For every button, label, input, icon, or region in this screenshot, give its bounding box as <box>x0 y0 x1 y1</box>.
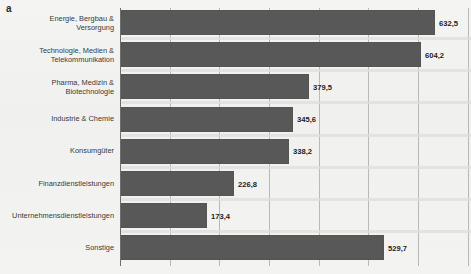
category-label: Pharma, Medizin &Biotechnologie <box>0 77 114 96</box>
bar[interactable] <box>121 107 293 132</box>
row-separator <box>121 230 471 233</box>
bar-rows: Energie, Bergbau &Versorgung632,5Technol… <box>0 8 471 266</box>
bar[interactable] <box>121 74 309 99</box>
row-separator <box>121 166 471 169</box>
bar[interactable] <box>121 10 435 35</box>
bar-row[interactable]: Technologie, Medien &Telekommunikation60… <box>0 42 471 67</box>
row-separator <box>121 198 471 201</box>
row-separator <box>121 101 471 104</box>
bar-value-label: 529,7 <box>388 243 407 252</box>
bar-value-label: 338,2 <box>293 147 312 156</box>
category-label: Sonstige <box>0 243 114 252</box>
category-label: Konsumgüter <box>0 147 114 156</box>
row-separator <box>121 134 471 137</box>
category-label: Finanzdienstleistungen <box>0 179 114 188</box>
category-label: Energie, Bergbau &Versorgung <box>0 13 114 32</box>
bar-value-label: 345,6 <box>297 115 316 124</box>
bar-row[interactable]: Industrie & Chemie345,6 <box>0 107 471 132</box>
category-label: Industrie & Chemie <box>0 114 114 123</box>
bar-row[interactable]: Sonstige529,7 <box>0 235 471 260</box>
bar-row[interactable]: Unternehmensdienstleistungen173,4 <box>0 203 471 228</box>
plot-area: Energie, Bergbau &Versorgung632,5Technol… <box>0 8 471 266</box>
bar-value-label: 173,4 <box>211 211 230 220</box>
bar[interactable] <box>121 171 234 196</box>
bar-value-label: 632,5 <box>439 18 458 27</box>
bar-value-label: 226,8 <box>238 179 257 188</box>
bar-row[interactable]: Pharma, Medizin &Biotechnologie379,5 <box>0 74 471 99</box>
category-label: Unternehmensdienstleistungen <box>0 211 114 220</box>
category-label: Technologie, Medien &Telekommunikation <box>0 45 114 64</box>
bar[interactable] <box>121 42 421 67</box>
row-separator <box>121 69 471 72</box>
bar-value-label: 604,2 <box>425 50 444 59</box>
bar-row[interactable]: Konsumgüter338,2 <box>0 139 471 164</box>
bar[interactable] <box>121 203 207 228</box>
row-separator <box>121 37 471 40</box>
bar-row[interactable]: Energie, Bergbau &Versorgung632,5 <box>0 10 471 35</box>
bar-chart: a Energie, Bergbau &Versorgung632,5Techn… <box>0 0 471 274</box>
bar[interactable] <box>121 139 289 164</box>
bar-value-label: 379,5 <box>313 82 332 91</box>
bar-row[interactable]: Finanzdienstleistungen226,8 <box>0 171 471 196</box>
bar[interactable] <box>121 235 384 260</box>
